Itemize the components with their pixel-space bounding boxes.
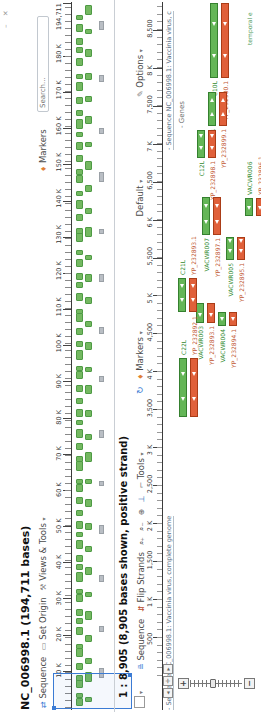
tools-menu-button[interactable]: ⌐ Tools ▾ xyxy=(136,452,146,488)
default-view-menu-button[interactable]: Default ▾ xyxy=(135,180,145,217)
cds-bar-YP_232893.1[interactable] xyxy=(189,278,197,312)
set-origin-label: Set Origin xyxy=(38,597,48,639)
window-controls[interactable]: – ✕ xyxy=(2,7,10,28)
density-mark xyxy=(76,228,83,234)
chevron-down-icon: ▾ xyxy=(137,49,144,52)
density-mark xyxy=(85,523,92,530)
density-mark xyxy=(99,75,104,82)
zoom-in-slider-button[interactable]: + xyxy=(178,678,189,689)
density-mark xyxy=(76,191,83,196)
gene-bar-VACWR007[interactable] xyxy=(202,197,210,235)
strand-arrow-icon xyxy=(192,397,196,401)
density-mark xyxy=(99,376,104,382)
density-mark xyxy=(99,327,104,334)
track-checkbox[interactable] xyxy=(134,696,145,708)
detail-tick-label: 5,500 xyxy=(146,247,154,266)
protein-label-YP_232896.1: YP_232896.1 xyxy=(257,156,261,195)
overview-ruler-axis xyxy=(71,2,72,710)
pan-right-button[interactable]: ▸ xyxy=(163,664,173,674)
overview-tick-label: 20 K xyxy=(55,627,63,642)
sequence-menu-label: Sequence xyxy=(38,657,48,699)
marker-pin-icon: ♦ xyxy=(40,166,48,172)
density-mark xyxy=(85,29,92,34)
pan-button[interactable]: ⊥ xyxy=(136,495,146,502)
overview-tick-label: 120 K xyxy=(55,261,63,280)
cds-bar-YP_232899.1[interactable] xyxy=(219,92,227,126)
refresh-button[interactable]: ↻ xyxy=(135,386,145,394)
zoom-out-button[interactable]: ⌕₋ xyxy=(136,522,146,530)
gene-bar-VACWR005[interactable] xyxy=(226,237,234,260)
sequence-track-caption-right[interactable]: - Sequence NC_006998.1: Vaccinia virus, … xyxy=(165,11,174,150)
sequence-icon: ≞ xyxy=(138,663,146,670)
density-mark xyxy=(85,635,92,642)
gene-bar-C22L[interactable] xyxy=(179,358,187,417)
strand-arrow-icon xyxy=(212,54,216,58)
gene-bar-C21L[interactable] xyxy=(178,278,186,312)
density-mark xyxy=(85,96,92,102)
zoom-out-slider-button[interactable]: − xyxy=(244,678,255,689)
strand-arrow-icon xyxy=(210,134,214,138)
views-tools-menu-button[interactable]: ⚒ Views & Tools ▾ xyxy=(38,517,48,590)
zoom-slider-handle[interactable] xyxy=(210,679,216,688)
density-mark xyxy=(76,644,83,649)
detail-markers-menu-button[interactable]: ♦ Markers ▾ xyxy=(135,331,145,380)
cds-bar-YP_232900.1[interactable] xyxy=(221,3,229,78)
zoom-reset-button[interactable]: ✛ xyxy=(163,676,173,686)
options-menu-button[interactable]: ✎ Options ▾ xyxy=(135,49,145,97)
zoom-slider-ticks[interactable] xyxy=(190,680,242,687)
overview-tick-label: 80 K xyxy=(55,410,63,425)
cds-bar-YP_232892.1[interactable] xyxy=(190,358,198,417)
markers-menu-button[interactable]: ♦ Markers xyxy=(38,129,48,172)
density-mark xyxy=(99,274,104,282)
detail-sequence-menu-button[interactable]: ≞ Sequence xyxy=(136,619,146,670)
gene-bar-C11R[interactable] xyxy=(208,92,216,126)
strand-arrow-icon xyxy=(181,372,185,376)
protein-label-YP_232895.1: YP_232895.1 xyxy=(238,263,245,302)
checkbox-caret-icon[interactable]: ▾ xyxy=(137,691,144,694)
strand-arrow-icon xyxy=(204,221,208,225)
density-mark xyxy=(76,273,83,280)
set-origin-button[interactable]: ▭ Set Origin xyxy=(38,597,48,650)
zoom-in-button[interactable]: ⌕₊ xyxy=(136,537,146,545)
cds-bar-YP_232895.1[interactable] xyxy=(237,237,245,260)
gene-bar-C10L[interactable] xyxy=(210,3,218,78)
cds-bar-YP_232896.1[interactable] xyxy=(256,198,261,216)
sequence-menu-button[interactable]: ⇄ Sequence xyxy=(38,657,48,708)
cds-bar-YP_232897.1[interactable] xyxy=(213,197,221,235)
cds-bar-YP_232893.1[interactable] xyxy=(207,303,215,323)
gene-label-VACWR003: VACWR003 xyxy=(197,326,204,359)
density-mark xyxy=(76,564,83,570)
density-mark xyxy=(76,648,83,657)
zoom-out-icon: ⌕₋ xyxy=(138,522,146,530)
density-mark xyxy=(76,409,83,417)
density-mark xyxy=(76,663,83,670)
pan-left-button[interactable]: ◂ xyxy=(163,688,173,698)
density-mark xyxy=(99,525,104,534)
cds-bar-YP_232894.1[interactable] xyxy=(229,312,237,326)
search-input[interactable] xyxy=(37,16,49,112)
strand-arrow-icon xyxy=(228,239,232,243)
density-mark xyxy=(85,592,92,597)
density-mark xyxy=(99,430,104,438)
overview-tick-label: 60 K xyxy=(55,482,63,497)
genes-track-title[interactable]: - Genes xyxy=(178,101,186,128)
zoom-sequence-button[interactable]: ⊕ xyxy=(136,509,146,516)
strand-arrow-icon xyxy=(239,239,243,243)
density-mark xyxy=(76,15,83,20)
density-mark xyxy=(85,161,92,170)
density-mark xyxy=(85,116,92,124)
detail-tick-label: 6,500 xyxy=(146,171,154,190)
density-mark xyxy=(76,510,83,516)
density-mark xyxy=(99,575,104,582)
selection-handle-top[interactable] xyxy=(52,706,56,710)
cds-bar-YP_232898.1[interactable] xyxy=(208,130,216,158)
gene-bar-VACWR006[interactable] xyxy=(245,198,253,216)
gene-bar-VACWR004[interactable] xyxy=(218,312,226,326)
flip-strands-button[interactable]: ⇵ Flip Strands xyxy=(136,552,146,612)
gene-bar-C12L[interactable] xyxy=(197,130,205,158)
density-mark xyxy=(76,74,83,79)
density-mark xyxy=(76,484,83,492)
density-mark xyxy=(76,555,83,562)
sequence-viewer-window: – ✕ NC_006998.1 (194,711 bases) ⇄ Sequen… xyxy=(0,0,261,712)
protein-label-YP_232893.1: YP_232893.1 xyxy=(190,236,197,275)
